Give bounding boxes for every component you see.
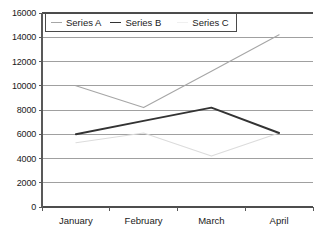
legend-item[interactable]: Series C	[177, 14, 228, 31]
legend-item[interactable]: Series A	[51, 14, 101, 31]
x-axis-tick-label: March	[198, 215, 224, 226]
x-axis-tick-label: January	[59, 215, 93, 226]
line-chart: 0200040006000800010000120001400016000 Se…	[0, 0, 327, 243]
series-line-series-a	[76, 35, 279, 108]
line-marker-series-c-icon	[177, 22, 188, 23]
line-marker-series-b-icon	[110, 22, 121, 23]
legend-item-label: Series C	[192, 18, 228, 28]
x-axis-labels: JanuaryFebruaryMarchApril	[42, 209, 313, 233]
gridlines	[42, 13, 313, 207]
plot-area	[0, 0, 327, 243]
chart-legend: Series ASeries BSeries C	[45, 13, 237, 32]
legend-item-label: Series B	[125, 18, 161, 28]
series-line-series-b	[76, 108, 279, 135]
legend-item-label: Series A	[66, 18, 101, 28]
line-marker-series-a-icon	[51, 22, 62, 23]
legend-item[interactable]: Series B	[110, 14, 161, 31]
x-axis-tick-label: April	[270, 215, 289, 226]
series-line-series-c	[76, 133, 279, 156]
x-axis-tick-label: February	[125, 215, 163, 226]
